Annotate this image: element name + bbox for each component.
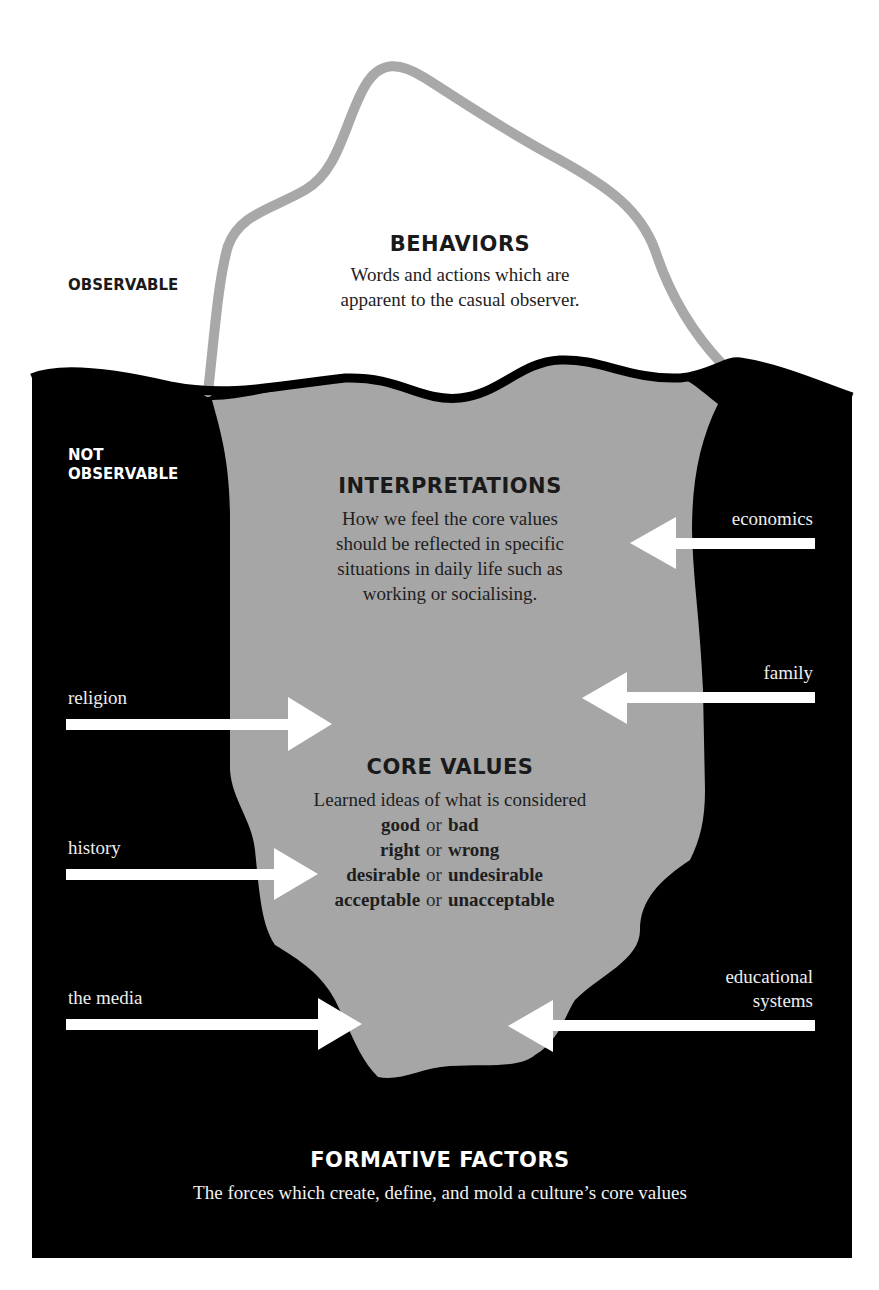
factor-educational-line-2: systems: [725, 989, 813, 1013]
factor-educational-systems: educational systems: [725, 965, 813, 1013]
value-positive: acceptable: [292, 887, 420, 912]
not-observable-line1: NOT: [68, 446, 178, 465]
interpretations-line-2: should be reflected in specific: [250, 531, 650, 556]
value-pair: rightorwrong: [250, 837, 650, 862]
value-pair: desirableorundesirable: [250, 862, 650, 887]
value-positive: good: [292, 812, 420, 837]
not-observable-line2: OBSERVABLE: [68, 465, 178, 484]
factor-economics: economics: [732, 507, 813, 531]
value-negative: unacceptable: [448, 887, 608, 912]
core-values-title: CORE VALUES: [250, 755, 650, 779]
core-values-description: Learned ideas of what is considered good…: [250, 787, 650, 912]
value-negative: undesirable: [448, 862, 608, 887]
iceberg-diagram: OBSERVABLE NOT OBSERVABLE BEHAVIORS Word…: [0, 0, 879, 1290]
value-negative: bad: [448, 812, 608, 837]
conjunction: or: [426, 864, 442, 885]
factor-the-media: the media: [68, 986, 142, 1010]
interpretations-line-1: How we feel the core values: [250, 506, 650, 531]
conjunction: or: [426, 814, 442, 835]
behaviors-description: Words and actions which are apparent to …: [260, 262, 660, 312]
factor-religion: religion: [68, 686, 127, 710]
factor-family: family: [763, 661, 813, 685]
value-pair: goodorbad: [250, 812, 650, 837]
formative-factors-description: The forces which create, define, and mol…: [100, 1180, 780, 1205]
core-values-intro: Learned ideas of what is considered: [250, 787, 650, 812]
interpretations-description: How we feel the core values should be re…: [250, 506, 650, 606]
factor-educational-line-1: educational: [725, 965, 813, 989]
behaviors-section: BEHAVIORS Words and actions which are ap…: [260, 232, 660, 312]
core-values-section: CORE VALUES Learned ideas of what is con…: [250, 755, 650, 912]
value-negative: wrong: [448, 837, 608, 862]
interpretations-line-3: situations in daily life such as: [250, 556, 650, 581]
value-positive: desirable: [292, 862, 420, 887]
behaviors-line-1: Words and actions which are: [260, 262, 660, 287]
formative-factors-title: FORMATIVE FACTORS: [100, 1148, 780, 1172]
interpretations-title: INTERPRETATIONS: [250, 474, 650, 498]
factor-history: history: [68, 836, 121, 860]
behaviors-title: BEHAVIORS: [260, 232, 660, 256]
not-observable-label: NOT OBSERVABLE: [68, 446, 178, 484]
iceberg-graphic: [0, 0, 879, 1290]
value-positive: right: [292, 837, 420, 862]
conjunction: or: [426, 839, 442, 860]
behaviors-line-2: apparent to the casual observer.: [260, 287, 660, 312]
observable-label: OBSERVABLE: [68, 276, 178, 295]
iceberg-tip-outline: [208, 66, 722, 392]
interpretations-section: INTERPRETATIONS How we feel the core val…: [250, 474, 650, 606]
interpretations-line-4: working or socialising.: [250, 581, 650, 606]
conjunction: or: [426, 889, 442, 910]
value-pair: acceptableorunacceptable: [250, 887, 650, 912]
formative-factors-section: FORMATIVE FACTORS The forces which creat…: [100, 1148, 780, 1205]
